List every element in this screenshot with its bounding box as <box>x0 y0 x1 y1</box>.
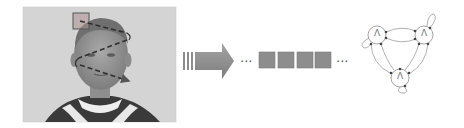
leading-ellipsis: ... <box>240 50 252 65</box>
state-graph <box>362 14 435 93</box>
state-node-2-label: Λ <box>414 28 434 38</box>
trailing-ellipsis: ... <box>336 50 348 65</box>
face-photo <box>23 7 176 122</box>
state-node-3-label: Λ <box>390 71 410 81</box>
figure-canvas <box>0 0 464 128</box>
observation-sequence <box>259 52 331 68</box>
state-node-1-label: Λ <box>367 28 387 38</box>
figure: ... ... Λ Λ Λ <box>0 0 464 128</box>
transform-arrow <box>183 43 234 79</box>
